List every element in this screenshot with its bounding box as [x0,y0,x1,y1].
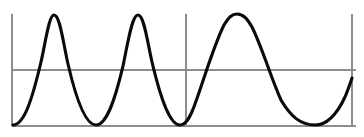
waveform-figure [0,0,364,137]
plot-background [0,0,364,137]
waveform-chart [0,0,364,137]
